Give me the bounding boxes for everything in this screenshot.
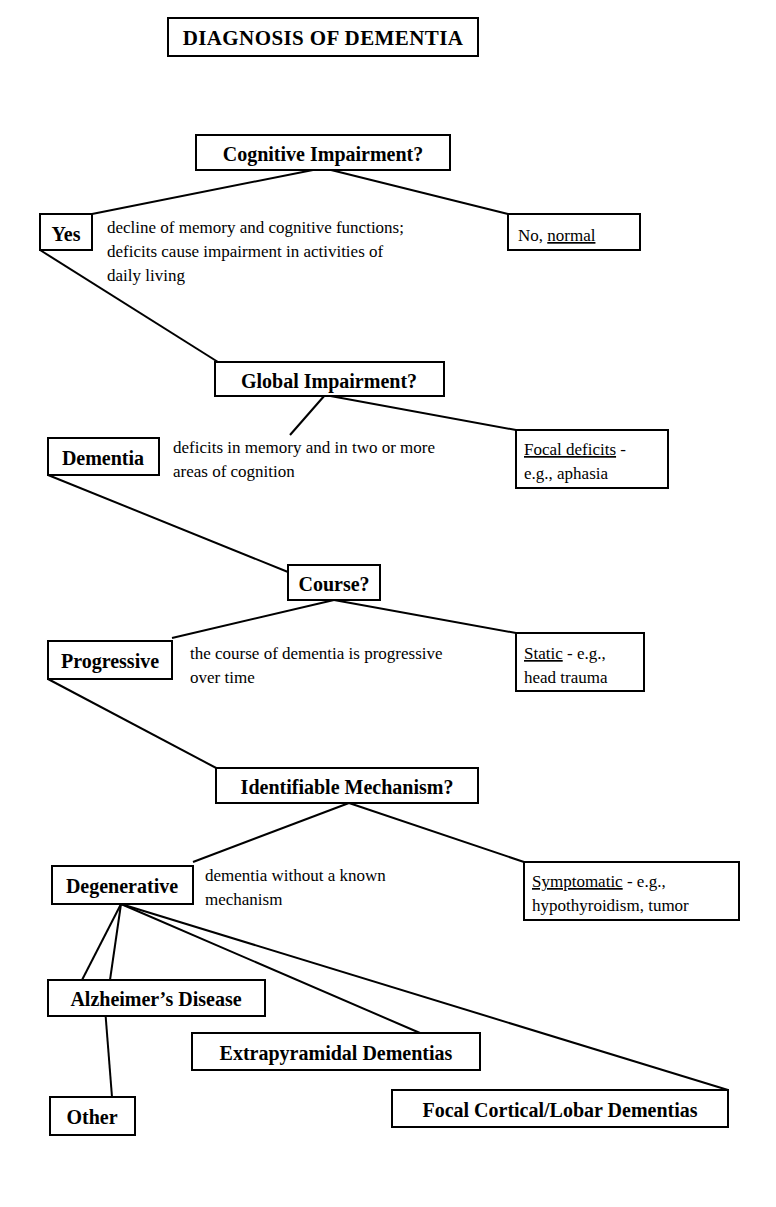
- note-mechanism-line-2: mechanism: [205, 890, 282, 909]
- note-identifiable-mechanism: dementia without a known mechanism: [205, 866, 386, 909]
- outcome-node-degenerative[interactable]: Degenerative: [52, 866, 193, 904]
- diagram-title: DIAGNOSIS OF DEMENTIA: [168, 18, 478, 56]
- static-line-1: Static - e.g.,: [524, 644, 606, 663]
- note-cognitive-impairment: decline of memory and cognitive function…: [107, 218, 404, 285]
- leaf-node-extrapyramidal-dementias[interactable]: Extrapyramidal Dementias: [192, 1033, 480, 1070]
- degenerative-label: Degenerative: [66, 875, 178, 898]
- note-cognitive-line-2: deficits cause impairment in activities …: [107, 242, 383, 261]
- outcome-node-dementia[interactable]: Dementia: [48, 438, 159, 475]
- note-course-line-1: the course of dementia is progressive: [190, 644, 443, 663]
- connector-progressive-to-mechanism: [48, 679, 220, 770]
- focal-deficits-suffix: -: [616, 440, 626, 459]
- connector-group-level-1: [40, 168, 508, 362]
- outcome-node-static[interactable]: Static - e.g., head trauma: [516, 633, 644, 691]
- decision-node-global-impairment[interactable]: Global Impairment?: [215, 362, 444, 396]
- note-global-line-1: deficits in memory and in two or more: [173, 438, 435, 457]
- progressive-label: Progressive: [61, 650, 159, 673]
- connector-global-to-focal-deficits: [325, 395, 516, 430]
- connector-mechanism-to-degenerative: [193, 803, 349, 862]
- note-global-line-2: areas of cognition: [173, 462, 295, 481]
- cognitive-impairment-label: Cognitive Impairment?: [223, 143, 424, 166]
- connector-course-to-static: [334, 600, 516, 633]
- note-cognitive-line-3: daily living: [107, 266, 185, 285]
- focal-deficits-underlined: Focal deficits: [524, 440, 616, 459]
- alzheimers-disease-label: Alzheimer’s Disease: [70, 988, 241, 1010]
- connector-cognitive-to-yes: [92, 168, 323, 214]
- connector-mechanism-to-symptomatic: [349, 803, 524, 862]
- outcome-node-focal-deficits[interactable]: Focal deficits - e.g., aphasia: [516, 430, 668, 488]
- leaf-node-focal-cortical-lobar-dementias[interactable]: Focal Cortical/Lobar Dementias: [392, 1090, 728, 1127]
- no-normal-prefix: No,: [518, 226, 547, 245]
- no-normal-label: No, normal: [518, 226, 596, 245]
- focal-deficits-line-1: Focal deficits -: [524, 440, 626, 459]
- dementia-label: Dementia: [62, 447, 144, 469]
- focal-deficits-line-2: e.g., aphasia: [524, 464, 608, 483]
- outcome-node-yes[interactable]: Yes: [40, 214, 92, 250]
- connector-course-to-progressive: [172, 600, 334, 638]
- leaf-node-other[interactable]: Other: [50, 1097, 135, 1135]
- outcome-node-no-normal[interactable]: No, normal: [508, 214, 640, 250]
- connector-cognitive-to-no-normal: [323, 168, 508, 214]
- outcome-node-progressive[interactable]: Progressive: [48, 641, 172, 679]
- decision-node-identifiable-mechanism[interactable]: Identifiable Mechanism?: [216, 768, 478, 803]
- static-suffix: - e.g.,: [563, 644, 606, 663]
- page-title: DIAGNOSIS OF DEMENTIA: [183, 26, 464, 50]
- static-line-2: head trauma: [524, 668, 608, 687]
- note-global-impairment: deficits in memory and in two or more ar…: [173, 438, 435, 481]
- note-cognitive-line-1: decline of memory and cognitive function…: [107, 218, 404, 237]
- focal-cortical-lobar-dementias-label: Focal Cortical/Lobar Dementias: [422, 1099, 697, 1121]
- decision-node-course[interactable]: Course?: [288, 565, 380, 600]
- yes-label: Yes: [52, 223, 81, 245]
- symptomatic-line-2: hypothyroidism, tumor: [532, 896, 689, 915]
- symptomatic-line-1: Symptomatic - e.g.,: [532, 872, 666, 891]
- course-label: Course?: [298, 573, 369, 595]
- note-course-line-2: over time: [190, 668, 255, 687]
- extrapyramidal-dementias-label: Extrapyramidal Dementias: [220, 1042, 453, 1065]
- connector-dementia-to-course: [48, 475, 288, 572]
- connector-group-level-2: [48, 395, 516, 572]
- global-impairment-label: Global Impairment?: [241, 370, 417, 393]
- leaf-node-alzheimers-disease[interactable]: Alzheimer’s Disease: [48, 980, 265, 1016]
- connector-group-level-4: [193, 803, 524, 862]
- symptomatic-suffix: - e.g.,: [623, 872, 666, 891]
- outcome-node-symptomatic[interactable]: Symptomatic - e.g., hypothyroidism, tumo…: [524, 862, 739, 920]
- note-course: the course of dementia is progressive ov…: [190, 644, 443, 687]
- static-underlined: Static: [524, 644, 563, 663]
- identifiable-mechanism-label: Identifiable Mechanism?: [241, 776, 454, 798]
- connector-group-level-3: [48, 600, 516, 770]
- other-label: Other: [66, 1106, 117, 1128]
- symptomatic-underlined: Symptomatic: [532, 872, 623, 891]
- decision-node-cognitive-impairment[interactable]: Cognitive Impairment?: [196, 135, 450, 170]
- no-normal-underlined: normal: [547, 226, 595, 245]
- note-mechanism-line-1: dementia without a known: [205, 866, 386, 885]
- connector-global-to-dementia: [290, 395, 325, 435]
- connector-alzheimers-to-other: [105, 1008, 112, 1097]
- dementia-diagnosis-flowchart: DIAGNOSIS OF DEMENTIA Cognitive Impairme…: [0, 0, 776, 1207]
